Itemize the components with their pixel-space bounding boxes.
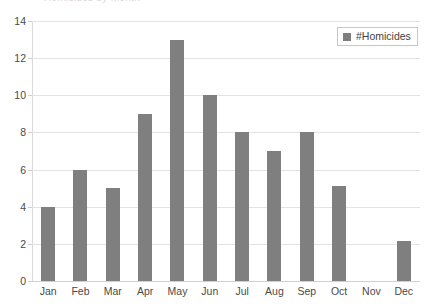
bar-jan[interactable]	[41, 207, 55, 281]
bar-slot	[258, 21, 290, 281]
x-axis-tick-label: Jan	[32, 285, 64, 298]
y-axis-tick-label: 2	[20, 238, 26, 249]
bar-feb[interactable]	[73, 170, 87, 281]
square-swatch-icon	[343, 33, 351, 41]
x-axis-tick-label: Mar	[97, 285, 129, 298]
y-axis-tick	[28, 95, 32, 96]
y-axis-tick	[28, 132, 32, 133]
y-axis-tick-label: 8	[20, 127, 26, 138]
x-axis-tick-label: Dec	[388, 285, 420, 298]
plot-area	[32, 21, 420, 281]
x-axis-tick-label: May	[161, 285, 193, 298]
x-axis-tick-label: Oct	[323, 285, 355, 298]
legend-entry-label: #Homicides	[356, 31, 411, 42]
x-axis-tick-label: Apr	[129, 285, 161, 298]
y-axis-tick-label: 10	[14, 90, 26, 101]
bar-sep[interactable]	[300, 132, 314, 281]
y-axis-tick	[28, 170, 32, 171]
bar-slot	[194, 21, 226, 281]
x-axis-tick-label: Feb	[64, 285, 96, 298]
bar-oct[interactable]	[332, 186, 346, 281]
bar-slot	[323, 21, 355, 281]
bar-jul[interactable]	[235, 132, 249, 281]
bar-mar[interactable]	[106, 188, 120, 281]
y-axis-tick-label: 4	[20, 201, 26, 212]
bar-series	[32, 21, 420, 281]
bar-slot	[97, 21, 129, 281]
bar-slot	[388, 21, 420, 281]
bar-dec[interactable]	[397, 241, 411, 281]
y-axis-tick	[28, 58, 32, 59]
bar-may[interactable]	[170, 40, 184, 281]
bar-slot	[129, 21, 161, 281]
bar-aug[interactable]	[267, 151, 281, 281]
gridline	[32, 281, 420, 282]
y-axis-tick	[28, 21, 32, 22]
chart-title-fragment: Homicides by Month	[44, 0, 244, 3]
bar-slot	[226, 21, 258, 281]
y-axis-tick-label: 12	[14, 53, 26, 64]
bar-chart: Homicides by Month 02468101214 JanFebMar…	[0, 0, 426, 308]
x-axis-tick-label: Nov	[355, 285, 387, 298]
x-axis-labels: JanFebMarAprMayJunJulAugSepOctNovDec	[32, 285, 420, 298]
bar-slot	[32, 21, 64, 281]
bar-slot	[355, 21, 387, 281]
x-axis-tick-label: Sep	[291, 285, 323, 298]
bar-slot	[161, 21, 193, 281]
bar-apr[interactable]	[138, 114, 152, 281]
y-axis-tick	[28, 207, 32, 208]
x-axis-tick-label: Jun	[194, 285, 226, 298]
chart-legend[interactable]: #Homicides	[337, 27, 418, 46]
x-axis-tick-label: Aug	[258, 285, 290, 298]
bar-slot	[291, 21, 323, 281]
y-axis-tick-label: 6	[20, 164, 26, 175]
x-axis-tick-label: Jul	[226, 285, 258, 298]
y-axis-tick-label: 0	[20, 276, 26, 287]
bar-slot	[64, 21, 96, 281]
y-axis-tick	[28, 281, 32, 282]
y-axis-tick-label: 14	[14, 16, 26, 27]
bar-jun[interactable]	[203, 95, 217, 281]
y-axis-tick	[28, 244, 32, 245]
